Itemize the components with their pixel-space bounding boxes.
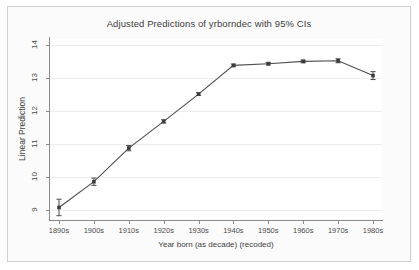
x-axis-line (49, 220, 383, 221)
prediction-line (59, 61, 373, 208)
data-point-marker (267, 62, 271, 66)
y-tick-label: 12 (30, 100, 39, 120)
x-tick (129, 220, 130, 224)
data-point-marker (127, 146, 131, 150)
y-tick-label: 11 (30, 133, 39, 153)
confidence-interval-bars (56, 59, 375, 216)
x-tick (303, 220, 304, 224)
data-point-marker (336, 59, 340, 63)
chart-figure: Adjusted Predictions of yrborndec with 9… (0, 0, 419, 270)
y-tick-label: 14 (30, 34, 39, 54)
x-tick (199, 220, 200, 224)
x-axis-label: Year born (as decade) (recoded) (50, 240, 382, 249)
x-tick-label: 1980s (351, 226, 395, 235)
x-tick (94, 220, 95, 224)
data-point-marker (57, 206, 61, 210)
x-tick (59, 220, 60, 224)
data-point-marker (371, 74, 375, 78)
data-point-markers (57, 59, 375, 209)
data-point-marker (301, 60, 305, 64)
x-tick (338, 220, 339, 224)
x-tick (164, 220, 165, 224)
chart-title: Adjusted Predictions of yrborndec with 9… (7, 18, 411, 29)
data-point-marker (92, 180, 96, 184)
y-tick-label: 10 (30, 166, 39, 186)
y-tick-label: 9 (30, 199, 39, 219)
plot-area: 91011121314 1890s1900s1910s1920s1930s194… (50, 39, 382, 219)
y-axis-label-text: Linear Prediction (17, 97, 27, 161)
data-point-marker (162, 120, 166, 124)
y-tick-label: 13 (30, 67, 39, 87)
data-point-marker (197, 92, 201, 96)
data-point-marker (232, 64, 236, 68)
x-tick (373, 220, 374, 224)
x-tick (233, 220, 234, 224)
y-axis-label: Linear Prediction (15, 39, 29, 219)
x-tick (268, 220, 269, 224)
data-series-layer (50, 39, 382, 219)
